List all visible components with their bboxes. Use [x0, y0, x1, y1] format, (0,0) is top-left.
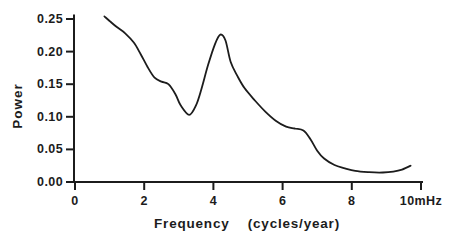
x-tick-label: 6 — [255, 194, 311, 208]
y-tick-label: 0.25 — [0, 12, 63, 26]
y-tick-label: 0.00 — [0, 175, 63, 189]
x-tick-label: 2 — [116, 194, 172, 208]
y-tick-label: 0.15 — [0, 77, 63, 91]
y-tick-label: 0.05 — [0, 142, 63, 156]
y-tick-label: 0.20 — [0, 45, 63, 59]
power-spectrum-figure: Power Frequency (cycles/year) 0.000.050.… — [0, 0, 458, 243]
power-spectrum-curve — [104, 16, 410, 172]
x-tick-label: 10mHz — [393, 194, 449, 208]
x-axis-title: Frequency (cycles/year) — [127, 216, 367, 231]
x-tick-label: 4 — [185, 194, 241, 208]
x-tick-label: 0 — [47, 194, 103, 208]
x-tick-label: 8 — [324, 194, 380, 208]
y-tick-label: 0.10 — [0, 110, 63, 124]
